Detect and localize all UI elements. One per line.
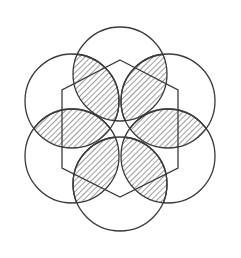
geometric-figure-canvas [0,0,241,258]
